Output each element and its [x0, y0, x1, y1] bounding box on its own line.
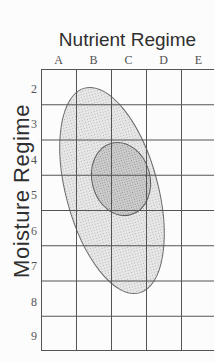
edatope-figure: Nutrient Regime Moisture Regime A B C D …	[0, 0, 214, 362]
y-tick-label-4: 4	[15, 154, 37, 166]
x-tick-label-A: A	[42, 53, 76, 68]
y-tick-label-9: 9	[15, 330, 37, 342]
plot-area	[41, 69, 214, 351]
y-tick-label-6: 6	[15, 225, 37, 237]
x-tick-label-D: D	[147, 53, 181, 68]
y-tick-label-5: 5	[15, 189, 37, 201]
y-tick-label-8: 8	[15, 296, 37, 308]
x-tick-label-B: B	[77, 53, 111, 68]
x-tick-label-E: E	[182, 53, 215, 68]
y-tick-label-2: 2	[15, 83, 37, 95]
x-tick-label-C: C	[112, 53, 146, 68]
y-tick-label-3: 3	[15, 118, 37, 130]
y-tick-label-7: 7	[15, 260, 37, 272]
x-axis-title: Nutrient Regime	[41, 29, 214, 51]
